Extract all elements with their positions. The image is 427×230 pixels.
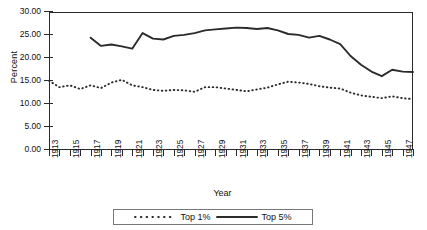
series-line-top-5-percent <box>91 28 413 77</box>
chart-container: Percent 0.005.0010.0015.0020.0025.0030.0… <box>0 0 427 230</box>
legend-label-top-5-percent: Top 5% <box>262 213 292 222</box>
legend-item-top-1-percent: Top 1% <box>134 213 210 222</box>
x-axis-title: Year <box>0 188 427 198</box>
legend-swatch-solid-icon <box>216 213 258 221</box>
series-line-top-1-percent <box>49 80 413 99</box>
chart-legend: Top 1% Top 5% <box>113 209 313 225</box>
legend-item-top-5-percent: Top 5% <box>216 213 292 222</box>
legend-label-top-1-percent: Top 1% <box>180 213 210 222</box>
legend-swatch-dotted-icon <box>134 213 176 221</box>
